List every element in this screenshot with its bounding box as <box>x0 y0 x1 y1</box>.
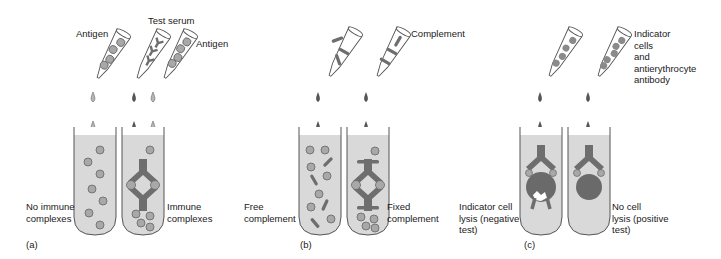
tube-indicator-cell-lysis <box>520 127 562 235</box>
tube-free-complement <box>299 127 341 235</box>
label-no-cell-lysis: No cell lysis (positive test) <box>612 201 669 236</box>
panel-label-b: (b) <box>300 239 312 251</box>
label-immune-complexes: Immune complexes <box>167 201 212 224</box>
label-free-complement: Free complement <box>244 201 296 224</box>
panel-c-pipette-1 <box>543 25 584 79</box>
tube-immune-complexes <box>122 127 164 235</box>
label-test-serum: Test serum <box>148 15 194 27</box>
tube-no-immune-complexes <box>74 127 116 235</box>
panel-b-pipette-1 <box>316 21 364 80</box>
tube-no-cell-lysis <box>568 127 610 235</box>
panel-label-c: (c) <box>524 239 535 251</box>
label-fixed-complement: Fixed complement <box>387 201 439 224</box>
label-no-immune-complexes: No immune complexes <box>26 201 75 224</box>
label-indicator-cell-lysis: Indicator cell lysis (negative test) <box>459 201 519 236</box>
tube-fixed-complement <box>347 127 389 235</box>
panel-c-pipette-2 <box>592 25 633 79</box>
panel-b-pipette-2 <box>371 25 412 79</box>
panel-label-a: (a) <box>26 239 38 251</box>
label-antigen-left: Antigen <box>76 28 108 40</box>
label-antigen-right: Antigen <box>196 38 228 50</box>
label-indicator-cells: Indicator cells and antierythrocyte anti… <box>634 28 696 86</box>
label-complement: Complement <box>411 28 465 40</box>
